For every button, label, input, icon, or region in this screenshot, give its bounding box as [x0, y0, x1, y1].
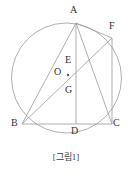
circle-center-dot [67, 74, 69, 76]
vertex-label-E: E [65, 55, 71, 65]
vertex-label-F: F [109, 21, 115, 31]
segment-BF [22, 38, 112, 124]
segment-AF [76, 23, 112, 38]
vertex-label-C: C [113, 118, 120, 128]
vertex-label-B: B [11, 118, 18, 128]
vertex-label-G: G [65, 85, 72, 95]
vertex-label-A: A [70, 5, 77, 15]
circumscribed-circle [12, 23, 122, 133]
figure-caption: [그림1] [0, 150, 132, 163]
segment-AB [22, 23, 76, 124]
segment-AC [76, 23, 112, 124]
geometry-figure: A F E O G B D C [그림1] [0, 0, 132, 173]
vertex-label-D: D [71, 126, 78, 136]
vertex-label-O: O [54, 67, 61, 77]
